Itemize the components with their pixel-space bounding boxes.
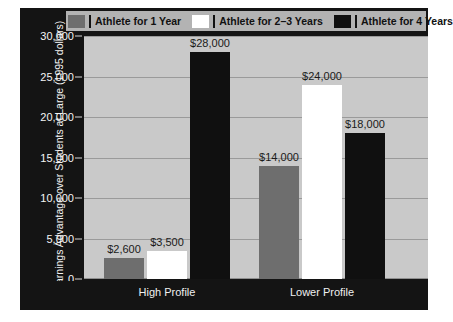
bar-5[interactable]: $24,000	[302, 85, 342, 279]
y-tick-mark	[75, 117, 82, 118]
legend-swatch-icon	[68, 15, 85, 28]
y-tick-label: 25,000	[40, 71, 74, 83]
y-tick-label: 30,000	[40, 30, 74, 42]
legend-entry-2[interactable]: Athlete for 2–3 Years	[192, 11, 323, 31]
bar-4[interactable]: $14,000	[259, 166, 299, 279]
bar-6[interactable]: $18,000	[345, 133, 385, 279]
legend-label: Athlete for 4 Years	[355, 15, 453, 28]
y-tick-label: 10,000	[40, 192, 74, 204]
x-axis-label-2: Lower Profile	[290, 286, 354, 298]
legend-entry-1[interactable]: Athlete for 1 Year	[68, 11, 181, 31]
legend-label: Athlete for 2–3 Years	[213, 15, 323, 28]
legend-swatch-icon	[334, 15, 351, 28]
bar-1[interactable]: $2,600	[104, 258, 144, 279]
y-tick-mark	[75, 157, 82, 158]
y-tick-label: 20,000	[40, 111, 74, 123]
gridline	[84, 77, 428, 78]
bar-value-label: $24,000	[302, 70, 342, 82]
gridline	[84, 36, 428, 37]
y-tick-mark	[75, 198, 82, 199]
plot-area: $2,600$3,500$28,000$14,000$24,000$18,000	[84, 36, 428, 279]
legend-swatch-icon	[192, 15, 209, 28]
x-axis-band: High ProfileLower Profile	[20, 281, 428, 310]
bar-value-label: $18,000	[345, 118, 385, 130]
legend-entry-3[interactable]: Athlete for 4 Years	[334, 11, 453, 31]
legend-label: Athlete for 1 Year	[89, 15, 181, 28]
y-tick-mark	[75, 279, 82, 280]
y-tick-label: 5,000	[46, 233, 74, 245]
bar-value-label: $28,000	[190, 37, 230, 49]
y-tick-mark	[75, 76, 82, 77]
bar-value-label: $3,500	[150, 236, 184, 248]
y-tick-label: 15,000	[40, 152, 74, 164]
chart-legend: Athlete for 1 YearAthlete for 2–3 YearsA…	[66, 11, 426, 31]
bar-3[interactable]: $28,000	[190, 52, 230, 279]
bar-2[interactable]: $3,500	[147, 251, 187, 279]
bar-value-label: $2,600	[107, 243, 141, 255]
x-axis-label-1: High Profile	[139, 286, 196, 298]
y-tick-mark	[75, 238, 82, 239]
y-axis-ticks: 05,00010,00015,00020,00025,00030,000	[22, 8, 84, 310]
bar-value-label: $14,000	[259, 151, 299, 163]
y-tick-mark	[75, 36, 82, 37]
